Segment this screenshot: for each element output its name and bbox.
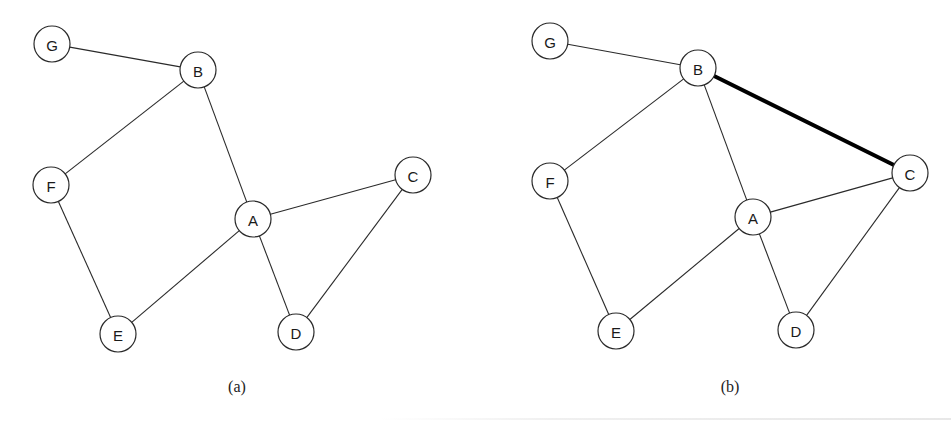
edge-c-d: [807, 188, 900, 316]
edge-g-b: [70, 47, 181, 67]
edge-a-d: [259, 236, 289, 315]
edge-b-f: [65, 81, 184, 174]
node-label: C: [905, 166, 916, 183]
nodes-layer: GBFACED: [532, 23, 928, 349]
node-d: D: [778, 312, 814, 348]
caption-b: (b): [721, 378, 740, 396]
edge-a-d: [759, 234, 789, 313]
node-a: A: [235, 201, 271, 237]
node-d: D: [278, 314, 314, 350]
edge-a-c: [770, 178, 892, 212]
edge-b-a: [204, 87, 247, 202]
node-label: E: [113, 327, 123, 344]
node-label: C: [408, 168, 419, 185]
node-g: G: [34, 26, 70, 62]
node-label: G: [544, 34, 556, 51]
graph-panel-b: GBFACED: [532, 23, 928, 349]
graph-figure: GBFACED GBFACED: [0, 0, 951, 424]
node-label: B: [193, 63, 203, 80]
node-b: B: [180, 52, 216, 88]
node-label: D: [291, 325, 302, 342]
edge-b-c-highlighted: [714, 76, 894, 165]
node-f: F: [33, 167, 69, 203]
node-label: D: [791, 323, 802, 340]
edge-f-e: [58, 201, 110, 317]
edge-f-e: [557, 197, 609, 314]
node-label: E: [611, 324, 621, 341]
caption-a: (a): [228, 378, 246, 396]
edges-layer: [557, 44, 899, 319]
edges-layer: [58, 47, 402, 322]
edge-g-b: [568, 44, 681, 65]
node-c: C: [892, 155, 928, 191]
node-f: F: [532, 163, 568, 199]
footer-divider: [380, 418, 951, 420]
node-label: A: [748, 210, 758, 227]
edge-e-a: [630, 229, 739, 320]
node-label: F: [545, 174, 554, 191]
edge-c-d: [307, 189, 402, 317]
edge-b-f: [564, 79, 683, 170]
node-label: B: [693, 61, 703, 78]
node-a: A: [735, 199, 771, 235]
node-b: B: [680, 50, 716, 86]
node-label: A: [248, 212, 258, 229]
edge-b-a: [704, 85, 747, 200]
node-c: C: [395, 157, 431, 193]
edge-a-c: [270, 180, 395, 214]
node-label: F: [46, 178, 55, 195]
nodes-layer: GBFACED: [33, 26, 431, 352]
node-g: G: [532, 23, 568, 59]
node-e: E: [598, 313, 634, 349]
graph-panel-a: GBFACED: [33, 26, 431, 352]
node-label: G: [46, 37, 58, 54]
node-e: E: [100, 316, 136, 352]
edge-e-a: [132, 231, 240, 323]
